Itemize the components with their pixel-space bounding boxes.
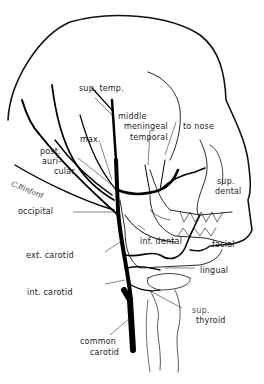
label-sup: sup. [217,177,235,186]
label-facial: facial [212,240,235,249]
ext-carotid [116,160,131,300]
label-cular: cular [54,167,75,176]
label-ext-carotid: ext. carotid [26,251,74,260]
label-lingual: lingual [200,266,228,275]
label-carotid: carotid [90,348,119,357]
label-inf-dental: inf. dental [140,237,182,246]
label-auri: auri- [42,157,61,166]
label-occipital: occipital [18,207,53,216]
label-thyroid: thyroid [196,316,226,325]
label-middle: middle [118,112,147,121]
label-int-carotid: int. carotid [27,288,73,297]
label-common: common [80,337,116,346]
label-max: max. [80,135,101,144]
label-dental: dental [215,187,242,196]
label-to-nose: to nose [183,122,214,131]
sup-temp-artery [112,100,116,160]
label-post: post. [40,147,61,156]
label-temporal: temporal [130,133,168,142]
label-sup-2: sup. [192,306,210,315]
label-sup-temp: sup. temp. [79,84,124,93]
label-meningeal: meningeal [124,122,168,131]
common-carotid [130,300,133,350]
sup-thyroid-artery [131,285,160,291]
